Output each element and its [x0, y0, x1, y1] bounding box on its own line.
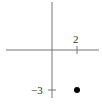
x-tick-label: 2: [73, 33, 79, 45]
y-tick-label: −3: [31, 84, 43, 96]
plotted-point: [74, 87, 80, 93]
coordinate-plane: 2 −3: [0, 0, 102, 108]
